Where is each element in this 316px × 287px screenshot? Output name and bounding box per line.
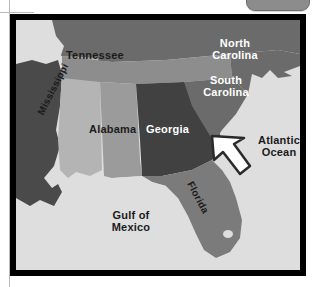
rounded-tab-control[interactable] (246, 0, 310, 11)
map-vector-layer (16, 20, 300, 270)
map-canvas[interactable]: Tennessee North Carolina South Carolina … (16, 20, 300, 270)
region-alabama[interactable] (100, 82, 142, 178)
map-figure: Tennessee North Carolina South Carolina … (10, 14, 306, 276)
page-margin-rule-horizontal (0, 12, 34, 13)
lake-okeechobee (223, 230, 233, 238)
